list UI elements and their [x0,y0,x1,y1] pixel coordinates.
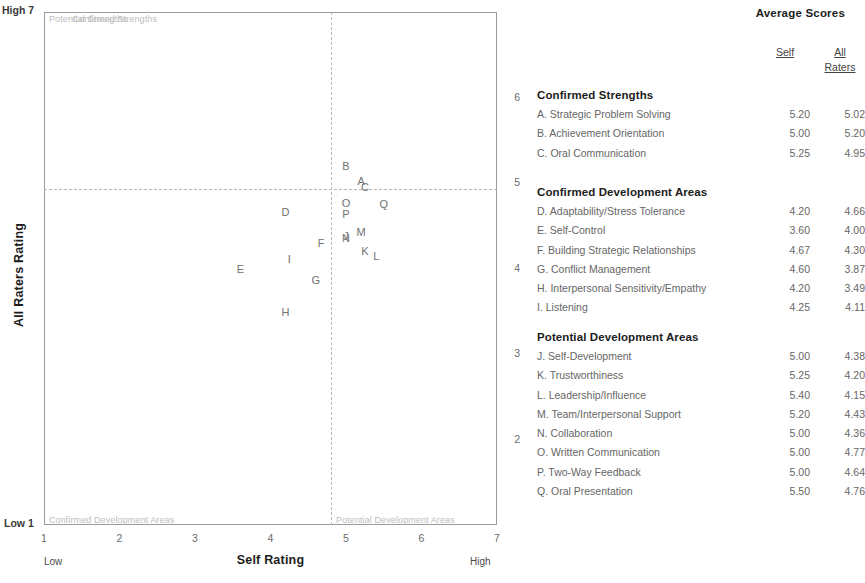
self-score: 5.00 [760,124,810,143]
all-raters-score: 4.00 [815,221,865,240]
score-row: Q. Oral Presentation5.504.76 [537,482,857,501]
score-row: C. Oral Communication5.254.95 [537,144,857,163]
data-point-B: B [342,160,349,172]
section-title: Confirmed Development Areas [537,186,857,198]
competency-name: E. Self-Control [537,221,605,240]
all-raters-score: 3.87 [815,260,865,279]
column-header-self: Self [760,46,810,58]
self-score: 4.60 [760,260,810,279]
x-axis-tick-4: 4 [268,532,274,544]
competency-name: Q. Oral Presentation [537,482,633,501]
score-row: M. Team/Interpersonal Support5.204.43 [537,405,857,424]
competency-name: C. Oral Communication [537,144,646,163]
all-raters-score: 4.38 [815,347,865,366]
all-raters-score: 4.36 [815,424,865,443]
competency-name: A. Strategic Problem Solving [537,105,671,124]
all-raters-score: 4.20 [815,366,865,385]
score-row: F. Building Strategic Relationships4.674… [537,241,857,260]
plot-area [44,12,497,525]
all-raters-score: 4.15 [815,386,865,405]
x-axis-tick-5: 5 [343,532,349,544]
data-point-G: G [312,274,321,286]
self-score: 4.67 [760,241,810,260]
data-point-L: L [373,250,379,262]
y-axis-tick-6: 6 [482,91,520,103]
average-scores-title: Average Scores [756,7,845,19]
self-score: 5.00 [760,347,810,366]
quadrant-label-confirmed-strengths: Confirmed Strengths [73,14,157,24]
data-point-K: K [361,245,368,257]
competency-name: B. Achievement Orientation [537,124,664,143]
all-raters-score: 4.95 [815,144,865,163]
all-raters-score: 4.66 [815,202,865,221]
self-score: 5.00 [760,443,810,462]
score-row: G. Conflict Management4.603.87 [537,260,857,279]
self-score: 5.20 [760,405,810,424]
horizontal-reference-line [44,189,497,190]
all-raters-score: 4.43 [815,405,865,424]
self-score: 4.20 [760,202,810,221]
score-row: K. Trustworthiness5.254.20 [537,366,857,385]
competency-name: G. Conflict Management [537,260,650,279]
self-score: 5.25 [760,366,810,385]
column-header-all: All [815,46,865,58]
x-axis-low-label: Low [44,556,62,567]
competency-name: J. Self-Development [537,347,632,366]
score-row: J. Self-Development5.004.38 [537,347,857,366]
all-raters-score: 4.11 [815,298,865,317]
vertical-reference-line [331,12,332,525]
data-point-E: E [237,263,244,275]
data-point-P: P [342,208,349,220]
all-raters-score: 4.77 [815,443,865,462]
x-axis-title: Self Rating [44,553,497,567]
x-axis-tick-1: 1 [41,532,47,544]
competency-name: I. Listening [537,298,588,317]
quadrant-label-potential-development-areas: Potential Development Areas [336,515,455,525]
score-row: O. Written Communication5.004.77 [537,443,857,462]
scatter-chart-panel: Potential Strengths Confirmed Strengths … [0,0,520,583]
score-row: A. Strategic Problem Solving5.205.02 [537,105,857,124]
competency-name: K. Trustworthiness [537,366,623,385]
section-potential-development-areas: Potential Development Areas J. Self-Deve… [537,331,857,501]
self-score: 5.40 [760,386,810,405]
all-raters-score: 4.76 [815,482,865,501]
y-axis-high-corner-label: High 7 [2,4,34,16]
x-axis-tick-2: 2 [117,532,123,544]
all-raters-score: 5.02 [815,105,865,124]
score-row: E. Self-Control3.604.00 [537,221,857,240]
score-row: P. Two-Way Feedback5.004.64 [537,463,857,482]
data-point-H: H [282,306,290,318]
all-raters-score: 4.30 [815,241,865,260]
x-axis-tick-7: 7 [494,532,500,544]
column-header-raters: Raters [815,61,865,73]
self-score: 5.20 [760,105,810,124]
data-point-F: F [318,237,325,249]
section-title: Potential Development Areas [537,331,857,343]
self-score: 3.60 [760,221,810,240]
x-axis-tick-6: 6 [419,532,425,544]
score-row: N. Collaboration5.004.36 [537,424,857,443]
competency-name: M. Team/Interpersonal Support [537,405,681,424]
y-axis-low-corner-label: Low 1 [4,517,34,529]
all-raters-score: 4.64 [815,463,865,482]
data-point-C: C [361,181,369,193]
self-score: 5.25 [760,144,810,163]
competency-name: P. Two-Way Feedback [537,463,641,482]
data-point-D: D [282,206,290,218]
y-axis-tick-3: 3 [482,347,520,359]
competency-name: H. Interpersonal Sensitivity/Empathy [537,279,706,298]
competency-name: O. Written Communication [537,443,660,462]
competency-name: F. Building Strategic Relationships [537,241,696,260]
self-score: 4.20 [760,279,810,298]
all-raters-score: 5.20 [815,124,865,143]
all-raters-score: 3.49 [815,279,865,298]
data-point-I: I [288,253,291,265]
self-score: 5.00 [760,424,810,443]
section-confirmed-development-areas: Confirmed Development Areas D. Adaptabil… [537,186,857,318]
score-row: D. Adaptability/Stress Tolerance4.204.66 [537,202,857,221]
competency-name: L. Leadership/Influence [537,386,646,405]
score-row: H. Interpersonal Sensitivity/Empathy4.20… [537,279,857,298]
y-axis-tick-5: 5 [482,176,520,188]
y-axis-tick-4: 4 [482,262,520,274]
y-axis-title: All Raters Rating [12,205,26,345]
